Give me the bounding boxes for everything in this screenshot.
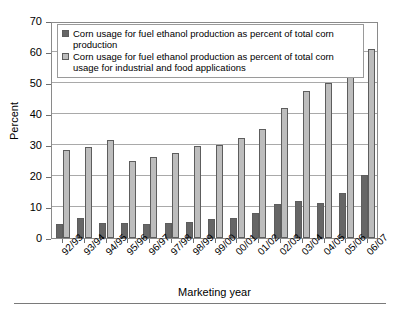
bar: [325, 83, 332, 238]
x-tick-mark: [62, 239, 63, 243]
bar: [368, 49, 375, 238]
y-tick-label-10: 10: [30, 202, 42, 213]
legend-entry-series-1: Corn usage for fuel ethanol production a…: [62, 28, 359, 50]
y-tick-label-50: 50: [30, 78, 42, 89]
y-tick-label-20: 20: [30, 171, 42, 182]
bar: [56, 224, 63, 238]
y-tick-label-70: 70: [30, 16, 42, 27]
legend-swatch-icon-series-2: [62, 53, 69, 60]
legend-entry-series-2: Corn usage for fuel ethanol production a…: [62, 51, 359, 73]
bar: [259, 129, 266, 238]
bar: [107, 140, 114, 238]
y-tick-label-40: 40: [30, 109, 42, 120]
bar: [150, 157, 157, 238]
bar: [194, 146, 201, 238]
bottom-divider: [14, 303, 386, 304]
x-axis-title: Marketing year: [51, 286, 378, 298]
bar: [347, 71, 354, 238]
y-tick-label-0: 0: [36, 233, 42, 244]
bar: [281, 108, 288, 238]
bar: [216, 145, 223, 238]
bar: [129, 161, 136, 239]
bar: [339, 193, 346, 238]
bar: [63, 150, 70, 238]
legend-label-series-1: Corn usage for fuel ethanol production a…: [73, 28, 359, 50]
legend: Corn usage for fuel ethanol production a…: [57, 24, 364, 78]
bar: [85, 147, 92, 238]
bar: [361, 175, 368, 238]
bar: [303, 91, 310, 238]
bar: [172, 153, 179, 238]
chart-figure: Percent 010203040506070 92/9393/9494/959…: [0, 0, 400, 312]
y-tick-label-60: 60: [30, 47, 42, 58]
y-tick-label-30: 30: [30, 140, 42, 151]
legend-swatch-icon-series-1: [62, 30, 69, 37]
x-axis-labels: 92/9393/9494/9595/9696/9797/9898/9999/00…: [51, 244, 378, 286]
y-axis: 010203040506070: [0, 0, 47, 312]
legend-label-series-2: Corn usage for fuel ethanol production a…: [73, 51, 359, 73]
bar: [238, 138, 245, 238]
